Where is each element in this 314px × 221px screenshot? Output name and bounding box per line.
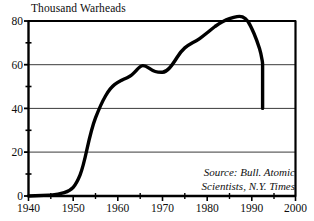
x-tick-label-1940: 1940 (9, 202, 49, 214)
source-note-line-2: Scientists, N.Y. Times (202, 180, 295, 194)
x-tick-label-1970: 1970 (143, 202, 183, 214)
y-tick-label-0: 0 (0, 190, 23, 202)
source-note-line-1: Source: Bull. Atomic (202, 166, 295, 180)
x-tick-label-1960: 1960 (98, 202, 138, 214)
chart-figure: Thousand Warheads (0, 0, 313, 221)
y-tick-label-20: 20 (0, 146, 23, 158)
x-tick-label-1990: 1990 (232, 202, 272, 214)
x-tick-label-1950: 1950 (53, 202, 93, 214)
x-tick-label-1980: 1980 (187, 202, 227, 214)
y-tick-label-80: 80 (0, 15, 23, 27)
y-tick-label-60: 60 (0, 59, 23, 71)
y-tick-label-40: 40 (0, 103, 23, 115)
gridlines (28, 65, 296, 152)
source-note: Source: Bull. Atomic Scientists, N.Y. Ti… (202, 166, 295, 193)
x-tick-label-2000: 2000 (276, 202, 314, 214)
